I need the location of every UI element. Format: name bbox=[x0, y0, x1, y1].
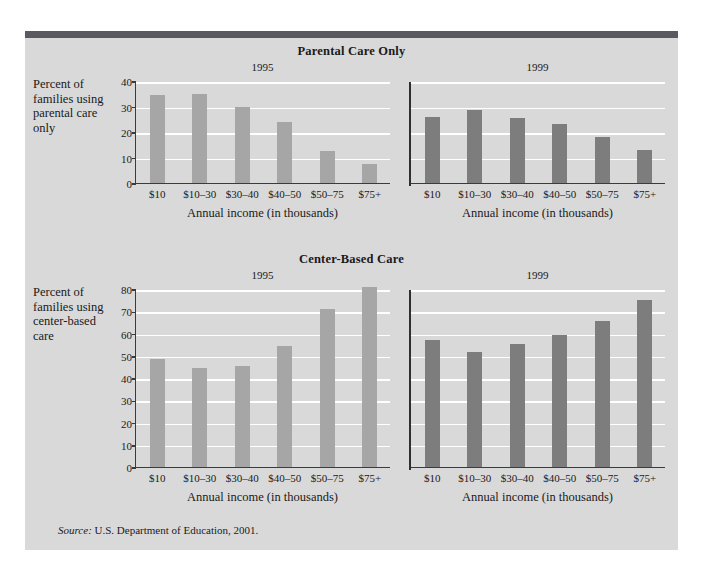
y-tick-mark bbox=[132, 467, 136, 469]
bar bbox=[510, 344, 525, 467]
gridline bbox=[136, 159, 390, 161]
y-tick-mark bbox=[132, 423, 136, 425]
gridline bbox=[411, 424, 665, 426]
bar bbox=[425, 340, 440, 467]
y-tick-label: 10 bbox=[121, 153, 132, 164]
gridline bbox=[136, 133, 390, 135]
panel-year-label-1995: 1995 bbox=[233, 269, 293, 281]
bar bbox=[595, 321, 610, 467]
plot-area-1999: $10$10–30$30–40$40–50$50–75$75+ bbox=[410, 82, 665, 184]
gridline bbox=[411, 312, 665, 314]
x-tick-label: $10 bbox=[149, 188, 166, 200]
y-tick-label: 70 bbox=[121, 307, 132, 318]
gridline bbox=[411, 159, 665, 161]
source-value: U.S. Department of Education, 2001. bbox=[95, 524, 259, 536]
y-tick-label: 50 bbox=[121, 351, 132, 362]
x-axis-caption: Annual income (in thousands) bbox=[408, 206, 668, 221]
x-tick-label: $75+ bbox=[633, 188, 656, 200]
x-tick-label: $30–40 bbox=[501, 188, 534, 200]
y-tick-label: 80 bbox=[121, 285, 132, 296]
x-tick-label: $50–75 bbox=[311, 472, 344, 484]
gridline bbox=[136, 379, 390, 381]
bar bbox=[235, 366, 250, 467]
figure-top-rule bbox=[25, 31, 678, 38]
x-tick-label: $10–30 bbox=[183, 472, 216, 484]
y-tick-label: 20 bbox=[121, 128, 132, 139]
x-tick-label: $30–40 bbox=[501, 472, 534, 484]
gridline bbox=[411, 82, 665, 84]
x-axis-caption: Annual income (in thousands) bbox=[408, 490, 668, 505]
x-tick-label: $40–50 bbox=[543, 472, 576, 484]
bar bbox=[150, 359, 165, 467]
gridline bbox=[411, 108, 665, 110]
plot-area-1999: $10$10–30$30–40$40–50$50–75$75+ bbox=[410, 290, 665, 468]
gridline bbox=[411, 290, 665, 292]
bar bbox=[637, 300, 652, 467]
bar bbox=[467, 352, 482, 467]
chart-title-center: Center-Based Care bbox=[25, 246, 678, 267]
gridline bbox=[136, 424, 390, 426]
x-tick-label: $10 bbox=[424, 472, 441, 484]
gridline bbox=[411, 335, 665, 337]
y-tick-mark bbox=[132, 334, 136, 336]
gridline bbox=[136, 290, 390, 292]
y-axis-caption: Percent of families using center-based c… bbox=[33, 285, 111, 343]
bar bbox=[150, 95, 165, 183]
panel-divider bbox=[409, 290, 411, 470]
panel-year-label-1999: 1999 bbox=[508, 269, 568, 281]
x-tick-label: $75+ bbox=[633, 472, 656, 484]
panel-year-label-1995: 1995 bbox=[233, 61, 293, 73]
x-tick-label: $10–30 bbox=[183, 188, 216, 200]
x-tick-label: $75+ bbox=[358, 188, 381, 200]
gridline bbox=[136, 335, 390, 337]
y-tick-mark bbox=[132, 378, 136, 380]
x-tick-label: $40–50 bbox=[268, 472, 301, 484]
x-tick-label: $30–40 bbox=[226, 472, 259, 484]
bar bbox=[320, 151, 335, 183]
bar bbox=[425, 117, 440, 183]
y-tick-label: 30 bbox=[121, 102, 132, 113]
bar bbox=[467, 110, 482, 183]
gridline bbox=[136, 312, 390, 314]
y-tick-mark bbox=[132, 183, 136, 185]
bar bbox=[595, 137, 610, 183]
x-tick-label: $40–50 bbox=[543, 188, 576, 200]
x-tick-label: $10–30 bbox=[458, 188, 491, 200]
bar bbox=[192, 368, 207, 467]
figure-panel: Parental Care Only 19951999Percent of fa… bbox=[25, 31, 678, 550]
chart-parental-care-only: Parental Care Only 19951999Percent of fa… bbox=[25, 38, 678, 246]
y-tick-mark bbox=[132, 107, 136, 109]
bar bbox=[362, 287, 377, 467]
x-tick-label: $30–40 bbox=[226, 188, 259, 200]
bar bbox=[277, 346, 292, 467]
x-tick-label: $50–75 bbox=[311, 188, 344, 200]
chart-center-based-care: Center-Based Care 19951999Percent of fam… bbox=[25, 246, 678, 516]
y-tick-mark bbox=[132, 356, 136, 358]
gridline bbox=[136, 446, 390, 448]
y-tick-label: 40 bbox=[121, 77, 132, 88]
bar bbox=[552, 335, 567, 467]
bar bbox=[320, 309, 335, 467]
y-tick-label: 40 bbox=[121, 374, 132, 385]
plot-area-1995: 010203040$10$10–30$30–40$40–50$50–75$75+ bbox=[135, 82, 390, 184]
panel-divider bbox=[409, 82, 411, 186]
bar bbox=[362, 164, 377, 183]
y-tick-mark bbox=[132, 401, 136, 403]
bar bbox=[637, 150, 652, 183]
gridline bbox=[136, 357, 390, 359]
y-axis-caption: Percent of families using parental care … bbox=[33, 77, 111, 135]
panel-year-label-1999: 1999 bbox=[508, 61, 568, 73]
y-tick-label: 30 bbox=[121, 396, 132, 407]
gridline bbox=[136, 401, 390, 403]
y-tick-mark bbox=[132, 289, 136, 291]
x-tick-label: $75+ bbox=[358, 472, 381, 484]
gridline bbox=[411, 133, 665, 135]
bar bbox=[552, 124, 567, 183]
gridline bbox=[136, 82, 390, 84]
gridline bbox=[136, 108, 390, 110]
x-tick-label: $10 bbox=[424, 188, 441, 200]
gridline bbox=[411, 379, 665, 381]
y-tick-label: 60 bbox=[121, 329, 132, 340]
bar bbox=[510, 118, 525, 183]
y-tick-mark bbox=[132, 445, 136, 447]
